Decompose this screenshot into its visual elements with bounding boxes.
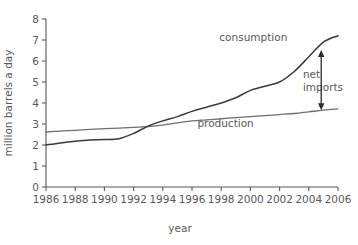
- chart-container: 012345678 198619881990199219941996199820…: [0, 0, 358, 245]
- y-axis-tick-label: 6: [32, 55, 39, 67]
- x-axis-tick-label: 1996: [179, 193, 206, 205]
- x-axis-tick-label: 1992: [120, 193, 147, 205]
- net-imports-label-line1: net: [303, 68, 320, 80]
- x-axis-tick-label: 1990: [91, 193, 118, 205]
- x-axis-tick-label: 1988: [62, 193, 89, 205]
- net-imports-label-line2: imports: [303, 81, 343, 93]
- y-axis-tick-label: 8: [32, 13, 39, 25]
- y-axis-title: million barrels a day: [2, 50, 14, 157]
- y-axis-tick-label: 4: [32, 97, 39, 109]
- x-axis-tick-label: 2006: [325, 193, 352, 205]
- y-axis-tick-label: 7: [32, 34, 39, 46]
- x-axis-tick-label: 1998: [208, 193, 235, 205]
- oil-consumption-production-line-chart: 012345678 198619881990199219941996199820…: [0, 0, 358, 245]
- y-axis-tick-label: 2: [32, 139, 39, 151]
- y-axis-tick-label: 3: [32, 118, 39, 130]
- x-axis-tick-label: 1994: [149, 193, 176, 205]
- x-axis-tick-label: 2004: [295, 193, 322, 205]
- x-axis-tick-label: 1986: [33, 193, 60, 205]
- x-axis-tick-label: 2002: [266, 193, 293, 205]
- x-axis-title: year: [168, 222, 192, 234]
- x-axis-tick-label: 2000: [237, 193, 264, 205]
- y-axis-tick-label: 5: [32, 76, 39, 88]
- y-axis-tick-label: 0: [32, 181, 39, 193]
- y-axis-tick-label: 1: [32, 160, 39, 172]
- production-label: production: [197, 117, 253, 129]
- consumption-label: consumption: [219, 31, 287, 43]
